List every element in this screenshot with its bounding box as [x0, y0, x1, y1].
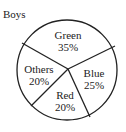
slice-label-red: Red 20% [45, 89, 85, 113]
slice-pct: 20% [19, 75, 59, 87]
slice-name: Red [45, 89, 85, 101]
slice-label-green: Green 35% [48, 29, 88, 53]
slice-pct: 20% [45, 101, 85, 113]
slice-label-blue: Blue 25% [74, 67, 114, 91]
slice-label-others: Others 20% [19, 63, 59, 87]
slice-name: Blue [74, 67, 114, 79]
slice-name: Others [19, 63, 59, 75]
slice-pct: 35% [48, 41, 88, 53]
slice-name: Green [48, 29, 88, 41]
